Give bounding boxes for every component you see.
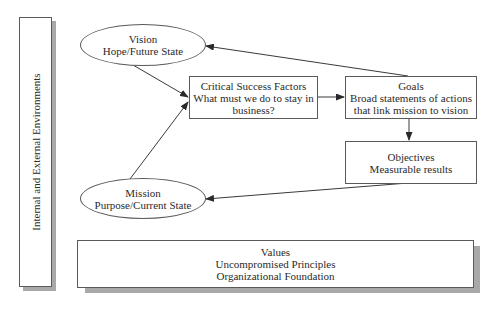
vision-node: Vision Hope/Future State [80,24,206,66]
mission-subtitle: Purpose/Current State [95,199,192,211]
vision-subtitle: Hope/Future State [103,45,183,57]
goals-line2: that link mission to vision [354,104,468,116]
objectives-title: Objectives [387,151,434,163]
objectives-node: Objectives Measurable results [345,141,477,184]
arrow-mission-to-csf [130,102,188,179]
csf-line1: What must we do to stay in [193,92,313,104]
arrow-goals-to-vision [206,46,408,76]
mission-title: Mission [125,187,160,199]
mission-node: Mission Purpose/Current State [80,178,206,219]
csf-line2: business? [232,104,274,116]
arrow-vision-to-csf [133,65,188,97]
arrow-objectives-to-mission [206,183,408,199]
vision-title: Vision [129,33,158,45]
csf-title: Critical Success Factors [201,80,307,92]
goals-line1: Broad statements of actions [350,92,472,104]
csf-node: Critical Success Factors What must we do… [189,76,318,119]
goals-node: Goals Broad statements of actions that l… [345,76,477,119]
objectives-subtitle: Measurable results [370,163,453,175]
goals-title: Goals [398,80,424,92]
